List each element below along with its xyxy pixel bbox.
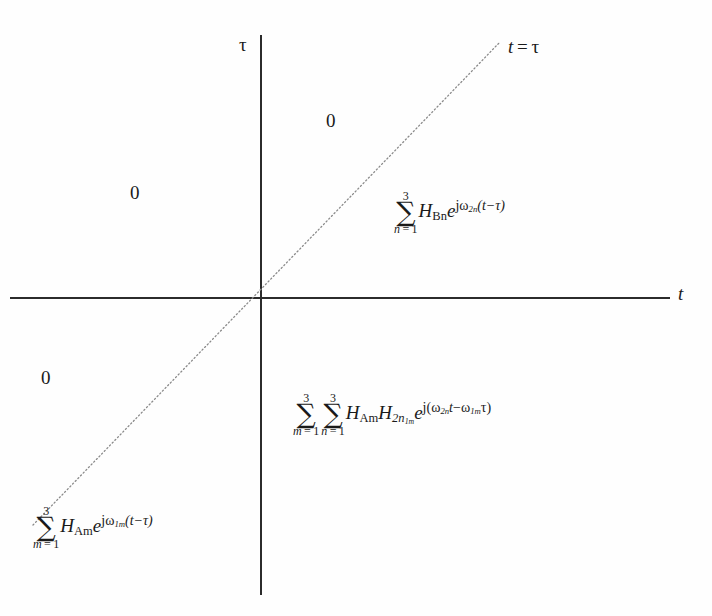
- exponent-omega-2n-subscript: 2n: [440, 406, 449, 416]
- coefficient-HA-subscript: Am: [360, 411, 379, 425]
- summation-n-lower-eq: = 1: [327, 424, 345, 438]
- exponent-omega-1m-subscript: 1m: [470, 406, 481, 416]
- exponent-argument: (t−τ): [477, 197, 505, 213]
- vertical-axis-label: τ: [239, 34, 247, 56]
- sigma-icon: ∑: [394, 201, 418, 223]
- coefficient-H-base: H: [60, 515, 74, 536]
- region-zero-left: 0: [130, 182, 140, 204]
- summation-lower-limit: m = 1: [33, 538, 59, 550]
- expression-lower-left: 3∑m = 1HAmejω1m(t−τ): [32, 505, 153, 550]
- coefficient-H2-nested-subscript: 1m: [405, 418, 415, 427]
- coefficient-HA-base: H: [346, 402, 360, 423]
- horizontal-axis-label: t: [678, 283, 683, 305]
- diagonal-line-label: t = τ: [508, 36, 539, 58]
- expression-lower-right: 3∑m = 13∑n = 1HAmH2n1mej(ω2nt−ω1mτ): [292, 392, 491, 437]
- summation-n: 3∑n = 1: [321, 392, 345, 437]
- diagonal-label-equals: =: [513, 36, 531, 57]
- summation-lower-eq: = 1: [400, 222, 418, 236]
- exponent-group: j(ω2nt−ω1mτ): [423, 399, 492, 415]
- coefficient-H2-subscript: 2n1m: [392, 411, 414, 425]
- diagonal-label-tau: τ: [532, 36, 540, 57]
- exponent-group: jω2n(t−τ): [455, 197, 505, 213]
- coefficient-H2-base: H: [378, 402, 392, 423]
- sigma-icon: ∑: [33, 516, 59, 538]
- exponential-base: e: [93, 515, 101, 536]
- exponent-argument: (t−τ): [125, 512, 153, 528]
- exponential-base: e: [414, 402, 422, 423]
- summation-index: m: [33, 537, 42, 551]
- coefficient-H2-subscript-text: 2n: [392, 411, 405, 425]
- exponent-omega-1m: ω: [461, 399, 470, 415]
- summation-m-index: m: [293, 424, 302, 438]
- coefficient-H-subscript: Am: [74, 524, 93, 538]
- expression-upper-right: 3∑n = 1HBnejω2n(t−τ): [393, 190, 505, 235]
- vertical-axis-line: [260, 35, 262, 595]
- region-zero-top: 0: [326, 110, 336, 132]
- exponent-omega: ω: [459, 197, 468, 213]
- exponent-omega-subscript: 2n: [469, 204, 478, 214]
- sigma-icon: ∑: [293, 403, 319, 425]
- exponent-omega-subscript: 1m: [114, 519, 125, 529]
- summation-lower-eq: = 1: [42, 537, 60, 551]
- coefficient-H-subscript: Bn: [432, 209, 447, 223]
- summation-lower-limit: n = 1: [394, 223, 418, 235]
- sigma-icon: ∑: [321, 403, 345, 425]
- coefficient-H-base: H: [419, 200, 433, 221]
- horizontal-axis-line: [10, 297, 670, 299]
- exponent-minus: −: [453, 399, 461, 415]
- exponent-omega: ω: [105, 512, 114, 528]
- summation-m-lower-limit: m = 1: [293, 425, 319, 437]
- math-plane-figure: τ t t = τ 0 0 0 3∑n = 1HBnejω2n(t−τ) 3∑m…: [0, 0, 712, 616]
- region-zero-bottom-left: 0: [41, 367, 51, 389]
- summation-n-lower-limit: n = 1: [321, 425, 345, 437]
- summation-m: 3∑m = 1: [293, 392, 319, 437]
- summation-m: 3∑m = 1: [33, 505, 59, 550]
- summation-n: 3∑n = 1: [394, 190, 418, 235]
- exponent-group: jω1m(t−τ): [101, 512, 153, 528]
- summation-m-lower-eq: = 1: [302, 424, 320, 438]
- exponent-close-paren: ): [487, 399, 492, 415]
